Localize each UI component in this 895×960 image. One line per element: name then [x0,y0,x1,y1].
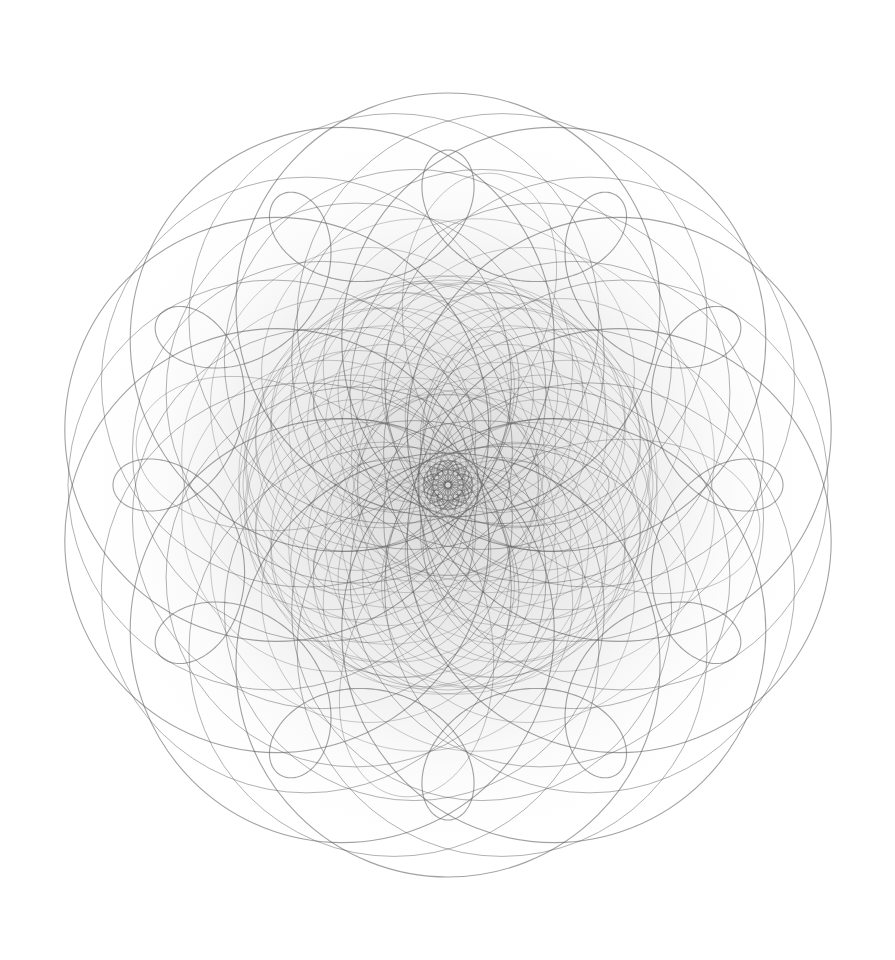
spirograph-artwork [0,0,895,960]
background-haze [76,113,821,858]
artwork-canvas [0,0,895,960]
